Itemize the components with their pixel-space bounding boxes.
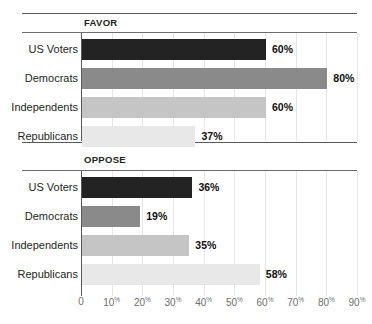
category-label-independents: Independents: [0, 231, 78, 260]
x-tick-90: 90%: [349, 296, 366, 308]
value-label: 60%: [272, 93, 293, 122]
x-tick-50: 50%: [226, 296, 243, 308]
category-label-independents: Independents: [0, 93, 78, 122]
value-label: 80%: [333, 64, 354, 93]
bar-row: US Voters60%: [0, 35, 372, 64]
x-tick-80: 80%: [318, 296, 335, 308]
panel-favor: FAVOR US Voters60%Democrats80%Independen…: [0, 0, 372, 150]
bar-democrats: [82, 206, 140, 227]
category-label-us-voters: US Voters: [0, 173, 78, 202]
category-label-republicans: Republicans: [0, 260, 78, 289]
value-label: 35%: [195, 231, 216, 260]
bar-republicans: [82, 126, 195, 147]
value-label: 37%: [201, 122, 222, 151]
bar-row: Independents60%: [0, 93, 372, 122]
x-tick-20: 20%: [134, 296, 151, 308]
category-label-republicans: Republicans: [0, 122, 78, 151]
bar-republicans: [82, 264, 260, 285]
grouped-bar-chart: FAVOR US Voters60%Democrats80%Independen…: [0, 0, 372, 324]
bar-us-voters: [82, 177, 192, 198]
value-label: 60%: [272, 35, 293, 64]
x-tick-40: 40%: [195, 296, 212, 308]
value-label: 19%: [146, 202, 167, 231]
bar-democrats: [82, 68, 327, 89]
value-label: 58%: [266, 260, 287, 289]
panel-favor-top-rule: [22, 13, 357, 14]
bar-row: Republicans37%: [0, 122, 372, 151]
category-label-democrats: Democrats: [0, 64, 78, 93]
x-axis-ticks: 010%20%30%40%50%60%70%80%90%: [0, 296, 372, 312]
panel-favor-title: FAVOR: [84, 17, 118, 28]
bar-row: US Voters36%: [0, 173, 372, 202]
bar-row: Democrats80%: [0, 64, 372, 93]
bar-us-voters: [82, 39, 266, 60]
x-tick-30: 30%: [165, 296, 182, 308]
category-label-us-voters: US Voters: [0, 35, 78, 64]
bar-row: Democrats19%: [0, 202, 372, 231]
bar-row: Independents35%: [0, 231, 372, 260]
category-label-democrats: Democrats: [0, 202, 78, 231]
panel-oppose-title: OPPOSE: [84, 154, 126, 165]
x-tick-0: 0: [78, 296, 84, 307]
x-tick-60: 60%: [257, 296, 274, 308]
bar-independents: [82, 97, 266, 118]
value-label: 36%: [198, 173, 219, 202]
x-tick-70: 70%: [287, 296, 304, 308]
bar-row: Republicans58%: [0, 260, 372, 289]
bar-independents: [82, 235, 189, 256]
x-tick-10: 10%: [103, 296, 120, 308]
